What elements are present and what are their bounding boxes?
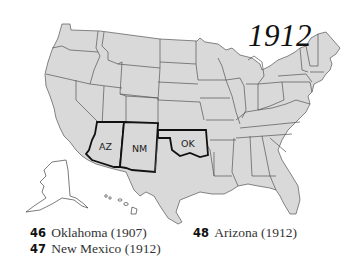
legend-number: 47: [30, 242, 48, 256]
label-az: AZ: [99, 141, 112, 152]
contiguous-us: [45, 24, 340, 224]
legend-item-46: 46 Oklahoma (1907): [30, 225, 147, 241]
alaska: [26, 160, 88, 212]
legend-number: 46: [30, 226, 48, 240]
year-title: 1912: [248, 18, 312, 54]
legend-item-47: 47 New Mexico (1912): [30, 241, 161, 257]
label-nm: NM: [132, 143, 147, 154]
legend-label: Arizona (1912): [214, 225, 297, 240]
legend-label: Oklahoma (1907): [51, 225, 147, 240]
legend-label: New Mexico (1912): [51, 241, 160, 256]
legend-item-48: 48 Arizona (1912): [193, 225, 297, 241]
hawaii: [105, 195, 137, 214]
legend-number: 48: [193, 226, 211, 240]
label-ok: OK: [181, 138, 195, 149]
